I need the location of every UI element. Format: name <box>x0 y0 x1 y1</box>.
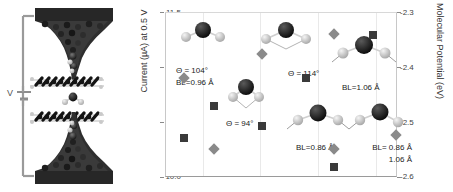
tick-mark-left-mid-upper <box>160 67 164 68</box>
water-molecule-config-4 <box>329 31 399 67</box>
tick-mark-left-top <box>160 12 164 13</box>
data-point-potential-1[interactable] <box>180 134 188 142</box>
data-point-potential-4[interactable] <box>302 74 310 82</box>
top-electrode <box>35 8 113 80</box>
bias-voltage-label: V <box>7 88 13 98</box>
data-point-current-3[interactable] <box>208 143 219 154</box>
tick-mark-right-top <box>397 12 401 13</box>
annotation-angle-config-3: Θ = 94° <box>226 119 253 129</box>
scatter-chart: Current (µA) at 0.5 V Molecular Potentia… <box>128 0 453 192</box>
junction-diagram-svg <box>0 0 128 192</box>
data-point-potential-6[interactable] <box>330 163 338 171</box>
graphene-sheet-lower <box>30 112 104 124</box>
figure-root: V Current (µA) at 0.5 V Molecular Potent… <box>0 0 453 192</box>
annotation-bond-config-6-line2: 1.06 Å <box>342 155 412 165</box>
water-molecule-config-3 <box>220 75 272 111</box>
graphene-sheet-upper <box>30 77 104 89</box>
y-tick-right--2.4: -2.4 <box>400 63 430 72</box>
tick-mark-right-mid-upper <box>397 67 401 68</box>
water-molecule-config-5 <box>284 100 352 134</box>
annotation-bond-config-4: BL=1.06 Å <box>342 83 380 93</box>
water-molecule-config-1 <box>175 17 231 49</box>
bias-source-icon <box>17 16 34 176</box>
data-point-potential-3[interactable] <box>210 102 218 110</box>
y-axis-right-title: Molecular Potential (eV) <box>435 0 445 111</box>
y-tick-right--2.6: -2.6 <box>400 172 430 181</box>
water-molecule-config-6 <box>346 100 414 134</box>
y-axis-left-title: Current (µA) at 0.5 V <box>139 0 149 111</box>
tick-mark-left-bottom <box>160 177 164 178</box>
annotation-bond-config-6-line1: BL= 0.86 Å <box>342 143 412 153</box>
molecular-junction-schematic: V <box>0 0 128 192</box>
plot-area: Θ = 104° BL=0.96 Å Θ = 114° <box>165 12 397 177</box>
tick-mark-right-bottom <box>397 177 401 178</box>
water-molecule-config-2 <box>256 18 316 52</box>
tick-mark-left-mid-lower <box>160 122 164 123</box>
data-point-potential-5[interactable] <box>369 31 377 39</box>
central-water-molecule <box>62 93 84 105</box>
y-tick-right--2.3: -2.3 <box>400 8 430 17</box>
data-point-potential-2[interactable] <box>258 122 266 130</box>
